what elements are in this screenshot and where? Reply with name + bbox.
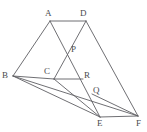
point-label-F: F [136,119,141,128]
figure-canvas [0,0,147,132]
segment-AE [50,21,100,117]
point-label-A: A [45,9,52,18]
geometry-figure: A D P B C R Q E F [0,0,147,132]
figure-line-group [13,21,138,117]
point-label-D: D [80,9,87,18]
segment-EF [100,116,138,117]
point-label-P: P [71,45,76,54]
point-label-C: C [44,67,50,76]
segment-QF [92,94,138,116]
point-label-Q: Q [93,86,100,95]
segment-BE [13,76,100,117]
point-label-R: R [84,71,90,80]
segment-DC [54,21,86,79]
point-label-B: B [2,71,8,80]
point-label-E: E [97,119,103,128]
